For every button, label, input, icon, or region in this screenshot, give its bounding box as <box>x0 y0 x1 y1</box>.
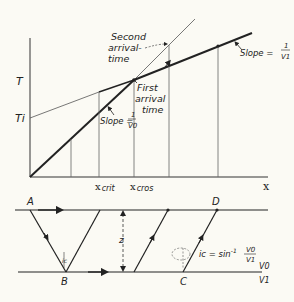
upper-velocity-label: V0 <box>259 262 270 271</box>
svg-text:time: time <box>142 104 164 115</box>
point-c-label: C <box>180 276 187 287</box>
x-crit-label: xcrit <box>95 181 116 193</box>
lower-velocity-label: V1 <box>259 276 270 285</box>
svg-text:1: 1 <box>284 42 288 50</box>
second-arrival-annotation: Second arrival- time <box>108 31 166 64</box>
ray-b-up <box>66 210 100 272</box>
intercept-label: Ti <box>15 112 25 125</box>
refracted-line-thin <box>30 92 99 118</box>
direct-wave-line-thick <box>30 80 134 177</box>
refracted-line-thick <box>134 33 252 80</box>
refraction-diagram: T Ti x xcrit xcros Second arrival- time … <box>0 0 294 302</box>
point-b-label: B <box>61 276 68 287</box>
layer-cross-section: z ic A B C D ic = sin-1 V0 V1 V0 V1 <box>15 196 270 287</box>
x-cros-label: xcros <box>130 181 153 193</box>
slope-v0-annotation: Slope = 1 V0 <box>100 108 138 130</box>
svg-text:Slope =: Slope = <box>240 48 273 58</box>
point-d-label: D <box>212 196 220 207</box>
point-dot <box>216 44 219 47</box>
depth-label: z <box>118 235 124 245</box>
svg-text:time: time <box>108 53 130 64</box>
angle-label: ic <box>62 257 68 264</box>
critical-angle-formula: ic = sin-1 V0 V1 <box>199 246 256 264</box>
svg-text:ic = sin-1: ic = sin-1 <box>199 247 237 259</box>
svg-text:First: First <box>137 82 159 93</box>
first-arrival-annotation: First arrival time <box>134 62 169 115</box>
slope-v1-annotation: Slope = 1 V1 <box>236 42 290 61</box>
ray-a-b <box>30 210 66 272</box>
svg-text:Second: Second <box>111 31 147 42</box>
svg-text:arrival: arrival <box>135 93 166 104</box>
svg-text:V0: V0 <box>246 246 256 254</box>
svg-text:V1: V1 <box>246 256 255 264</box>
t-axis-label: T <box>16 75 24 88</box>
svg-text:V0: V0 <box>128 122 138 130</box>
svg-text:arrival-: arrival- <box>108 42 142 53</box>
x-axis-label: x <box>263 180 270 193</box>
point-a-label: A <box>26 196 34 207</box>
direct-wave-line-thin <box>134 19 195 80</box>
svg-text:V1: V1 <box>281 53 290 61</box>
traveltime-graph: T Ti x xcrit xcros Second arrival- time … <box>15 19 290 193</box>
svg-text:1: 1 <box>131 111 135 119</box>
